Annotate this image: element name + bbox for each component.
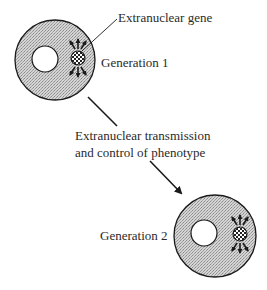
transmission-arrow-icon (150, 161, 181, 193)
extranuclear-gene-label: Extranuclear gene (118, 10, 212, 25)
transmission-line-upper (88, 97, 117, 126)
nucleus (32, 46, 58, 72)
transmission-label-line1: Extranuclear transmission (75, 128, 210, 143)
extranuclear-gene-icon (233, 227, 247, 241)
gene-leader-line (82, 19, 117, 51)
generation-1-label: Generation 1 (101, 55, 169, 70)
cell-generation-2 (174, 195, 256, 277)
nucleus (191, 220, 217, 246)
cell-generation-1 (15, 20, 95, 100)
extranuclear-inheritance-diagram: Extranuclear gene Generation 1 Extranucl… (0, 0, 267, 290)
transmission-label-line2: and control of phenotype (75, 145, 205, 160)
generation-2-label: Generation 2 (100, 228, 168, 243)
extranuclear-gene-icon (71, 51, 85, 65)
